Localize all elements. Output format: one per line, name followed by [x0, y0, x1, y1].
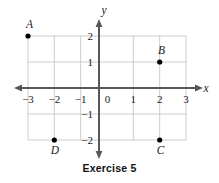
y-tick-1: 1 — [88, 56, 94, 68]
y-axis-label: y — [100, 4, 107, 17]
point-label-B: B — [158, 44, 165, 56]
y-tick-2: 2 — [88, 30, 94, 42]
point-D — [52, 137, 57, 142]
x-tick--2: −2 — [48, 93, 60, 105]
y-tick--1: −1 — [81, 108, 93, 120]
x-tick--1: −1 — [75, 93, 87, 105]
x-tick--3: −3 — [22, 93, 34, 105]
x-axis — [14, 85, 203, 92]
point-label-C: C — [157, 144, 165, 156]
x-axis-arrow-right — [195, 85, 203, 92]
x-axis-arrow-left — [14, 85, 22, 92]
x-tick-3: 3 — [183, 93, 189, 105]
x-tick-labels: −3 −2 −1 0 1 2 3 — [22, 93, 189, 105]
coordinate-plane-figure: x y −3 −2 −1 0 1 2 3 2 1 −1 −2 A — [0, 0, 219, 183]
point-C — [157, 137, 162, 142]
point-A — [25, 33, 30, 38]
y-axis-arrow-down — [96, 151, 103, 159]
figure-caption: Exercise 5 — [0, 162, 219, 174]
x-tick-1: 1 — [131, 93, 137, 105]
x-tick-0: 0 — [105, 93, 111, 105]
coordinate-plane-svg: x y −3 −2 −1 0 1 2 3 2 1 −1 −2 A — [0, 0, 219, 183]
x-tick-2: 2 — [157, 93, 163, 105]
point-label-D: D — [50, 144, 60, 156]
x-axis-label: x — [202, 82, 209, 94]
y-tick--2: −2 — [81, 134, 93, 146]
y-axis-arrow-up — [96, 19, 103, 27]
point-B — [157, 59, 162, 64]
point-label-A: A — [25, 18, 34, 30]
